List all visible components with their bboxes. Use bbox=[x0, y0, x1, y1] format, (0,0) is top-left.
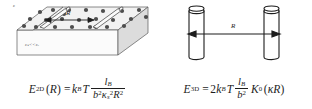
eq2d-fraction: lB b2κs2R2 bbox=[91, 76, 125, 100]
counterion bbox=[94, 17, 98, 21]
eq3d-fraction: lB b2 bbox=[235, 76, 248, 100]
counterion bbox=[38, 10, 42, 14]
counterion bbox=[129, 17, 133, 21]
eq2d-numerator: lB bbox=[102, 76, 113, 88]
panel-three-dimensional: R E3D = 2kB T lB b2 K0 (κR) bbox=[156, 0, 312, 109]
counterion bbox=[34, 25, 38, 29]
counterion bbox=[144, 15, 148, 19]
eq2d-T: T bbox=[81, 83, 89, 95]
eq2d-argument: (R) bbox=[44, 83, 62, 95]
equation-3d-container: E3D = 2kB T lB b2 K0 (κR) bbox=[156, 68, 312, 109]
eq3d-numerator-subscript: B bbox=[241, 80, 245, 87]
eq3d-denominator: b2 bbox=[235, 88, 248, 101]
permittivity-inside-label: εₛ<<εᵥ bbox=[25, 41, 39, 47]
eq2d-den-R-exp: 2 bbox=[120, 89, 124, 96]
eq2d-argument-R: R bbox=[50, 83, 57, 95]
equation-2d-container: E2D (R) = kB T lB b2κs2R2 bbox=[0, 68, 156, 109]
equation-2d: E2D (R) = kB T lB b2κs2R2 bbox=[29, 76, 127, 100]
counterion bbox=[51, 8, 55, 12]
eq3d-numerator: lB bbox=[236, 76, 247, 88]
counterion bbox=[60, 17, 64, 21]
cylinders-svg bbox=[156, 0, 312, 68]
cylinder-right-rim bbox=[264, 6, 279, 11]
eq2d-E: E bbox=[29, 83, 36, 95]
distance-label-3d: R bbox=[231, 22, 235, 30]
equation-3d: E3D = 2kB T lB b2 K0 (κR) bbox=[184, 76, 285, 100]
eq2d-equals: = bbox=[62, 83, 72, 95]
figure-container: ε εₛ<<εᵥ R E2D (R) = kB T lB b2κs2R2 bbox=[0, 0, 312, 109]
counterion bbox=[111, 18, 115, 22]
counterion bbox=[122, 24, 126, 28]
eq3d-bessel-close: ) bbox=[280, 83, 284, 95]
counterion bbox=[101, 9, 105, 13]
counterion bbox=[105, 25, 109, 29]
permittivity-outside-label: ε bbox=[13, 3, 15, 8]
eq3d-equals: = bbox=[199, 83, 210, 95]
eq3d-E: E bbox=[184, 83, 191, 95]
slab-diagram: ε εₛ<<εᵥ R bbox=[0, 0, 156, 68]
counterion bbox=[137, 8, 141, 12]
counterion bbox=[70, 25, 74, 29]
eq2d-denominator: b2κs2R2 bbox=[91, 88, 125, 101]
eq3d-den-b-exp: 2 bbox=[243, 89, 247, 96]
counterion bbox=[88, 25, 92, 29]
eq3d-T: T bbox=[226, 83, 234, 95]
cylinder-left-rim bbox=[189, 6, 204, 11]
cylinders-diagram: R bbox=[156, 0, 312, 68]
counterion bbox=[22, 24, 26, 28]
slab-svg bbox=[0, 0, 156, 68]
distance-label-2d: R bbox=[66, 9, 70, 17]
panel-two-dimensional: ε εₛ<<εᵥ R E2D (R) = kB T lB b2κs2R2 bbox=[0, 0, 156, 109]
eq3d-bessel-K: K bbox=[250, 83, 259, 95]
eq2d-numerator-subscript: B bbox=[107, 80, 111, 87]
counterion bbox=[84, 8, 88, 12]
eq3d-bessel-R: R bbox=[273, 83, 280, 95]
counterion bbox=[28, 17, 32, 21]
counterion bbox=[53, 25, 57, 29]
